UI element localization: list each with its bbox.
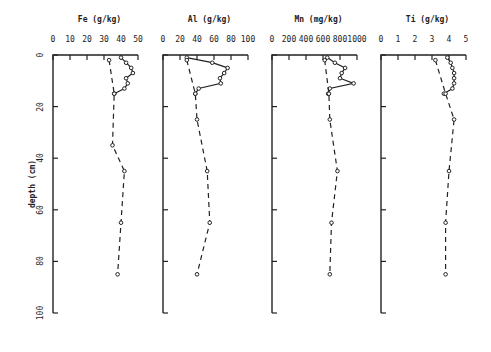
data-point-marker (452, 76, 456, 80)
y-tick-100: 100 (36, 306, 45, 321)
data-point-marker (452, 82, 456, 86)
data-point-marker (226, 66, 230, 70)
data-point-marker (211, 61, 215, 65)
x-tick-label: 3 (430, 35, 435, 44)
x-tick-label: 60 (209, 35, 219, 44)
data-point-marker (328, 118, 332, 122)
data-point-marker (222, 71, 226, 75)
x-tick-label: 20 (82, 35, 92, 44)
data-point-marker (451, 66, 455, 70)
data-point-marker (111, 144, 115, 148)
data-point-marker (449, 61, 453, 65)
x-tick-label: 5 (464, 35, 469, 44)
data-point-marker (340, 71, 344, 75)
y-axis-label: depth (cm) (28, 160, 37, 208)
panel-title: Al (g/kg) (188, 15, 231, 24)
axis-frame (381, 55, 466, 313)
data-point-marker (195, 273, 199, 277)
x-tick-label: 0 (270, 35, 275, 44)
x-tick-label: 0 (379, 35, 384, 44)
data-point-marker (333, 61, 337, 65)
x-tick-label: 600 (316, 35, 331, 44)
data-point-marker (126, 82, 130, 86)
x-tick-label: 0 (161, 35, 166, 44)
data-point-marker (124, 61, 128, 65)
panel-title: Ti (g/kg) (406, 14, 449, 24)
data-point-marker (323, 58, 327, 62)
data-point-marker (107, 58, 111, 62)
data-point-marker (451, 87, 455, 91)
data-point-marker (123, 87, 127, 91)
x-tick-label: 50 (133, 35, 143, 44)
data-point-marker (194, 92, 198, 96)
data-point-marker (338, 76, 342, 80)
data-point-marker (205, 169, 209, 173)
x-tick-label: 40 (192, 35, 202, 44)
panel-al: Al (g/kg)020406080100 (161, 15, 256, 313)
y-tick-0: 0 (36, 52, 45, 57)
x-tick-label: 1000 (347, 35, 366, 44)
data-point-marker (208, 221, 212, 225)
x-tick-label: 80 (226, 35, 236, 44)
axis-frame (272, 55, 357, 313)
x-tick-label: 4 (447, 35, 452, 44)
axis-frame (53, 55, 138, 313)
data-point-marker (129, 66, 133, 70)
data-point-marker (218, 76, 222, 80)
y-tick-80: 80 (36, 256, 45, 266)
x-tick-label: 30 (99, 35, 109, 44)
panel-title: Mn (mg/kg) (294, 15, 342, 24)
x-tick-label: 10 (65, 35, 75, 44)
x-tick-label: 800 (333, 35, 348, 44)
dashed-profile-line (187, 60, 210, 274)
data-point-marker (116, 273, 120, 277)
data-point-marker (185, 58, 189, 62)
data-point-marker (434, 58, 438, 62)
x-tick-label: 20 (175, 35, 185, 44)
x-tick-label: 200 (282, 35, 297, 44)
data-point-marker (328, 273, 332, 277)
x-tick-label: 100 (241, 35, 256, 44)
data-point-marker (219, 82, 223, 86)
data-point-marker (446, 56, 450, 60)
x-tick-label: 0 (51, 35, 56, 44)
data-point-marker (444, 92, 448, 96)
panel-ti: Ti (g/kg)012345 (379, 14, 469, 313)
y-tick-20: 20 (36, 102, 45, 112)
data-point-marker (197, 87, 201, 91)
data-point-marker (131, 71, 135, 75)
y-tick-60: 60 (36, 205, 45, 215)
data-point-marker (336, 169, 340, 173)
data-point-marker (444, 273, 448, 277)
x-tick-label: 2 (413, 35, 418, 44)
data-point-marker (452, 71, 456, 75)
data-point-marker (112, 92, 116, 96)
data-point-marker (124, 76, 128, 80)
y-tick-40: 40 (36, 153, 45, 163)
data-point-marker (327, 92, 331, 96)
x-tick-label: 1 (396, 35, 401, 44)
panel-mn: Mn (mg/kg)02004006008001000 (270, 15, 367, 313)
x-tick-label: 400 (299, 35, 314, 44)
data-point-marker (195, 118, 199, 122)
y-tick-labels: 0 20 40 60 80 100 (36, 52, 45, 320)
data-point-marker (119, 221, 123, 225)
panel-title: Fe (g/kg) (78, 15, 121, 24)
data-point-marker (123, 169, 127, 173)
data-point-marker (452, 118, 456, 122)
data-point-marker (343, 66, 347, 70)
data-point-marker (330, 221, 334, 225)
data-point-marker (444, 221, 448, 225)
panel-fe: Fe (g/kg)01020304050 (51, 15, 143, 313)
data-point-marker (447, 169, 451, 173)
solid-profile-line (187, 58, 228, 94)
panels: Fe (g/kg)01020304050Al (g/kg)02040608010… (51, 14, 469, 313)
depth-profile-chart: depth (cm) 0 20 40 60 80 100 Fe (g/kg)01… (0, 0, 491, 352)
data-point-marker (119, 56, 123, 60)
x-tick-label: 40 (116, 35, 126, 44)
axis-frame (163, 55, 248, 313)
data-point-marker (352, 82, 356, 86)
